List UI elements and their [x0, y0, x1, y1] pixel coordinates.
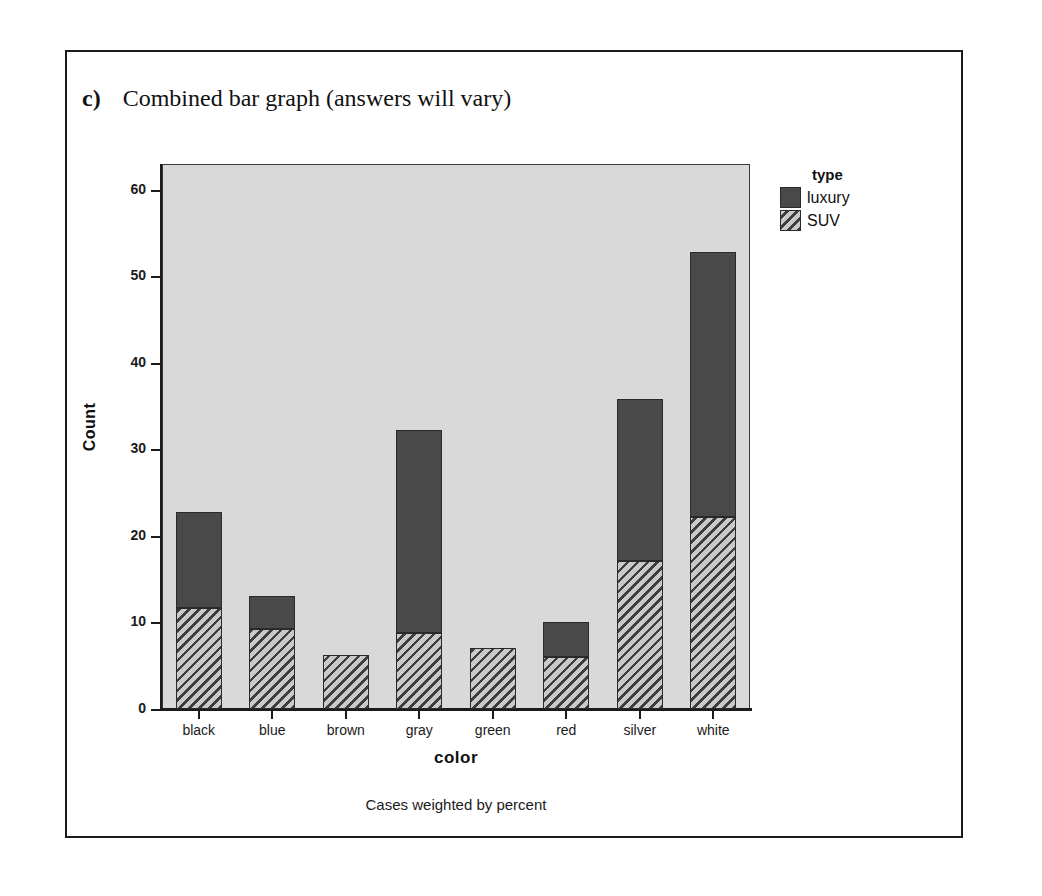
bar-segment-luxury-red: [543, 622, 589, 657]
y-axis-line: [160, 164, 162, 710]
x-tick-label-gray: gray: [406, 722, 433, 738]
y-tick-label-60: 60: [90, 181, 146, 197]
x-tick-brown: [345, 710, 347, 719]
bar-segment-suv-brown: [323, 655, 369, 710]
x-tick-blue: [271, 710, 273, 719]
legend-swatch-luxury-icon: [780, 187, 801, 208]
bar-segment-suv-red: [543, 657, 589, 709]
x-tick-black: [198, 710, 200, 719]
exercise-heading: c) Combined bar graph (answers will vary…: [82, 85, 511, 112]
x-tick-label-blue: blue: [259, 722, 285, 738]
y-tick-50: [151, 276, 161, 278]
bar-segment-luxury-silver: [617, 399, 663, 561]
y-tick-0: [151, 709, 161, 711]
x-tick-label-red: red: [556, 722, 576, 738]
legend-entry-suv: SUV: [780, 210, 930, 231]
bar-segment-luxury-gray: [396, 430, 442, 632]
y-tick-40: [151, 363, 161, 365]
x-tick-green: [492, 710, 494, 719]
x-tick-label-green: green: [475, 722, 511, 738]
x-tick-label-white: white: [697, 722, 730, 738]
y-tick-label-40: 40: [90, 354, 146, 370]
legend-entries: luxurySUV: [780, 187, 930, 231]
y-tick-label-20: 20: [90, 527, 146, 543]
x-tick-label-brown: brown: [327, 722, 365, 738]
bar-segment-suv-blue: [249, 629, 295, 709]
y-tick-label-50: 50: [90, 267, 146, 283]
x-tick-label-black: black: [182, 722, 215, 738]
bar-segment-luxury-blue: [249, 596, 295, 629]
x-tick-gray: [418, 710, 420, 719]
legend-title: type: [812, 166, 930, 183]
bar-segment-luxury-black: [176, 512, 222, 608]
bar-segment-suv-gray: [396, 633, 442, 709]
bar-segment-suv-white: [690, 517, 736, 709]
x-tick-silver: [639, 710, 641, 719]
figure-caption: Cases weighted by percent: [162, 796, 750, 813]
y-tick-label-0: 0: [90, 700, 146, 716]
x-tick-red: [565, 710, 567, 719]
legend-swatch-suv-icon: [780, 210, 801, 231]
y-tick-label-10: 10: [90, 613, 146, 629]
legend-label-luxury: luxury: [807, 189, 850, 207]
y-tick-30: [151, 449, 161, 451]
y-tick-10: [151, 622, 161, 624]
bar-segment-suv-silver: [617, 561, 663, 709]
x-tick-white: [712, 710, 714, 719]
bar-segment-suv-black: [176, 608, 222, 709]
y-tick-label-30: 30: [90, 440, 146, 456]
x-tick-label-silver: silver: [623, 722, 656, 738]
y-tick-60: [151, 190, 161, 192]
bar-segment-luxury-white: [690, 252, 736, 517]
chart-legend: type luxurySUV: [780, 166, 930, 233]
legend-entry-luxury: luxury: [780, 187, 930, 208]
chart-figure: Count 0102030405060 blackbluebrowngraygr…: [90, 160, 890, 820]
legend-label-suv: SUV: [807, 212, 840, 230]
y-tick-20: [151, 536, 161, 538]
exercise-heading-text: Combined bar graph (answers will vary): [123, 85, 512, 111]
x-axis-title: color: [162, 748, 750, 768]
bar-segment-suv-green: [470, 648, 516, 709]
exercise-letter: c): [82, 85, 101, 111]
